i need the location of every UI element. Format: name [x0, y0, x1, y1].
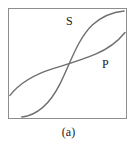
figure-container: S P (a): [0, 0, 137, 154]
curve-label-p: P: [102, 58, 109, 70]
curve-label-s: S: [66, 15, 73, 27]
figure-caption: (a): [0, 126, 137, 138]
